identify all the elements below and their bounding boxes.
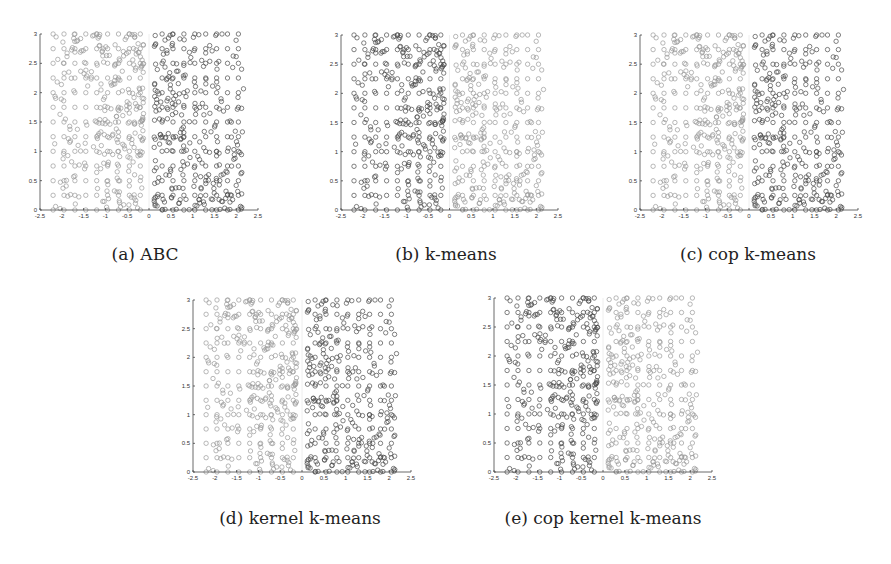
caption-d: (d) kernel k-means (219, 508, 381, 528)
x-tick-label: 2 (388, 475, 392, 481)
caption-a: (a) ABC (112, 244, 179, 264)
data-points (352, 33, 546, 212)
x-tick-label: 0 (147, 213, 151, 219)
x-tick-label: -2 (212, 475, 218, 481)
x-tick-label: 0 (747, 213, 751, 219)
y-tick-label: 2.5 (330, 61, 339, 67)
data-points (51, 32, 246, 212)
x-tick-label: 1 (791, 213, 795, 219)
y-tick-label: 3 (488, 295, 492, 301)
y-tick-label: 2.5 (629, 61, 638, 67)
x-tick-label: -2 (659, 213, 665, 219)
y-tick-label: 1.5 (29, 119, 38, 125)
x-tick-label: -0.5 (122, 213, 133, 219)
x-tick-label: -2.5 (35, 213, 46, 219)
x-tick-label: -0.5 (423, 213, 434, 219)
scatter-plot-d: -2.5-2-1.5-1-0.500.511.522.500.511.522.5… (171, 294, 423, 488)
y-tick-label: 0.5 (629, 178, 638, 184)
x-tick-label: -2 (59, 213, 65, 219)
caption-c: (c) cop k-means (680, 244, 816, 264)
x-tick-label: 1.5 (510, 213, 519, 219)
y-tick-label: 0.5 (29, 178, 38, 184)
y-tick-label: 0.5 (330, 178, 339, 184)
y-tick-label: 2 (488, 353, 492, 359)
x-tick-label: 0.5 (320, 475, 329, 481)
x-tick-label: 0.5 (621, 475, 630, 481)
x-tick-label: -1.5 (532, 475, 543, 481)
y-tick-label: 0.5 (182, 440, 191, 446)
caption-e: (e) cop kernel k-means (505, 508, 702, 528)
data-points (505, 296, 700, 474)
x-tick-label: -2.5 (489, 475, 500, 481)
x-tick-label: 1.5 (810, 213, 819, 219)
y-tick-label: 1.5 (330, 120, 339, 126)
x-tick-label: 0 (601, 475, 605, 481)
x-tick-label: -1 (103, 213, 109, 219)
x-tick-label: 1.5 (210, 213, 219, 219)
x-tick-label: -1.5 (379, 213, 390, 219)
x-tick-label: 2.5 (708, 475, 717, 481)
x-tick-label: -2 (360, 213, 366, 219)
x-tick-label: -1 (557, 475, 563, 481)
y-tick-label: 2 (335, 90, 339, 96)
x-tick-label: 2.5 (854, 213, 863, 219)
subplot-a: -2.5-2-1.5-1-0.500.511.522.500.511.522.5… (18, 28, 270, 226)
scatter-plot-b: -2.5-2-1.5-1-0.500.511.522.500.511.522.5… (319, 29, 570, 226)
y-tick-label: 1.5 (182, 383, 191, 389)
x-tick-label: -1 (703, 213, 709, 219)
x-tick-label: 2 (235, 213, 239, 219)
x-tick-label: -0.5 (275, 475, 286, 481)
y-tick-label: 1.5 (629, 120, 638, 126)
scatter-plot-e: -2.5-2-1.5-1-0.500.511.522.500.511.522.5… (472, 292, 724, 488)
x-tick-label: 2.5 (254, 213, 263, 219)
x-tick-label: 0.5 (167, 213, 176, 219)
x-tick-label: 2 (689, 475, 693, 481)
subplot-c: -2.5-2-1.5-1-0.500.511.522.500.511.522.5… (618, 29, 870, 226)
x-tick-label: 2 (835, 213, 839, 219)
y-tick-label: 1 (488, 411, 492, 417)
x-tick-label: -2 (513, 475, 519, 481)
x-tick-label: 2 (535, 213, 539, 219)
x-tick-label: 0 (300, 475, 304, 481)
x-tick-label: 0.5 (467, 213, 476, 219)
y-tick-label: 0.5 (483, 440, 492, 446)
scatter-plot-a: -2.5-2-1.5-1-0.500.511.522.500.511.522.5… (18, 28, 270, 226)
y-tick-label: 1 (634, 149, 638, 155)
x-tick-label: 1 (491, 213, 495, 219)
subplot-d: -2.5-2-1.5-1-0.500.511.522.500.511.522.5… (171, 294, 423, 488)
y-tick-label: 3 (335, 32, 339, 38)
x-tick-label: 0.5 (767, 213, 776, 219)
x-tick-label: -2.5 (336, 213, 347, 219)
subplot-e: -2.5-2-1.5-1-0.500.511.522.500.511.522.5… (472, 292, 724, 488)
x-tick-label: 1 (191, 213, 195, 219)
x-tick-label: -0.5 (722, 213, 733, 219)
y-tick-label: 2.5 (29, 60, 38, 66)
x-tick-label: -1 (403, 213, 409, 219)
y-tick-label: 3 (634, 32, 638, 38)
data-points (651, 33, 846, 212)
data-points (204, 298, 399, 474)
y-tick-label: 2 (187, 354, 191, 360)
x-tick-label: -2.5 (635, 213, 646, 219)
y-tick-label: 3 (187, 297, 191, 303)
x-tick-label: 0 (448, 213, 452, 219)
y-tick-label: 1 (187, 412, 191, 418)
x-tick-label: -1 (256, 475, 262, 481)
y-tick-label: 1 (34, 148, 38, 154)
x-tick-label: 1 (645, 475, 649, 481)
x-tick-label: 2.5 (407, 475, 416, 481)
x-tick-label: -1.5 (231, 475, 242, 481)
subplot-b: -2.5-2-1.5-1-0.500.511.522.500.511.522.5… (319, 29, 570, 226)
x-tick-label: 1 (344, 475, 348, 481)
y-tick-label: 1.5 (483, 382, 492, 388)
y-tick-label: 2.5 (182, 326, 191, 332)
x-tick-label: -0.5 (576, 475, 587, 481)
x-tick-label: -1.5 (678, 213, 689, 219)
x-tick-label: -1.5 (78, 213, 89, 219)
y-tick-label: 2.5 (483, 324, 492, 330)
x-tick-label: 2.5 (554, 213, 563, 219)
x-tick-label: 1.5 (664, 475, 673, 481)
y-tick-label: 2 (634, 90, 638, 96)
caption-b: (b) k-means (395, 244, 496, 264)
scatter-plot-c: -2.5-2-1.5-1-0.500.511.522.500.511.522.5… (618, 29, 870, 226)
